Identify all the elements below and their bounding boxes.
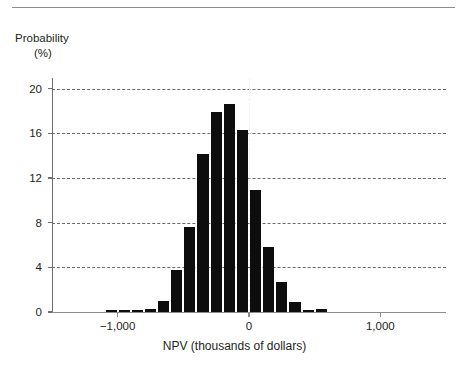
x-tick-mark bbox=[117, 313, 118, 317]
y-axis-title: Probability (%) bbox=[13, 31, 133, 61]
histogram-bar bbox=[224, 104, 235, 312]
histogram-bar bbox=[211, 112, 222, 312]
histogram-bar bbox=[197, 154, 208, 313]
histogram-bar bbox=[237, 130, 248, 312]
y-tick-label: 8 bbox=[2, 217, 42, 229]
y-axis-title-line2: (%) bbox=[13, 46, 133, 61]
x-tick-mark bbox=[380, 313, 381, 317]
y-tick-label: 20 bbox=[2, 83, 42, 95]
x-tick-label: −1,000 bbox=[100, 320, 136, 332]
zero-reference-line bbox=[249, 78, 250, 312]
top-divider-rule bbox=[12, 7, 455, 8]
histogram-bar bbox=[158, 301, 169, 312]
x-tick-label: 0 bbox=[246, 320, 252, 332]
plot-area: 048121620 −1,00001,000 bbox=[52, 72, 446, 312]
histogram-bar bbox=[171, 270, 182, 312]
y-axis-title-line1: Probability bbox=[13, 31, 133, 46]
y-tick-label: 16 bbox=[2, 127, 42, 139]
x-tick-mark bbox=[248, 313, 249, 317]
y-axis-spine bbox=[52, 78, 53, 312]
histogram-bar bbox=[184, 227, 195, 312]
histogram-bar bbox=[289, 302, 300, 312]
histogram-bar bbox=[263, 247, 274, 312]
x-tick-label: 1,000 bbox=[366, 320, 395, 332]
y-tick-label: 4 bbox=[2, 261, 42, 273]
x-axis-title: NPV (thousands of dollars) bbox=[0, 339, 469, 353]
y-tick-label: 12 bbox=[2, 172, 42, 184]
y-tick-label: 0 bbox=[2, 306, 42, 318]
histogram-bar bbox=[250, 190, 261, 312]
histogram-figure: Probability (%) 048121620 −1,00001,000 N… bbox=[0, 0, 469, 368]
histogram-bar bbox=[276, 282, 287, 312]
